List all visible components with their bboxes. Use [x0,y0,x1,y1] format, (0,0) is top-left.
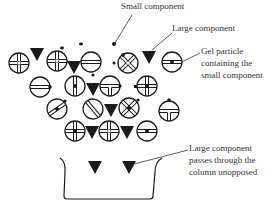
gel-particle [114,49,142,77]
gel-particle-with-small-component [65,76,85,96]
gel-particle [99,121,119,141]
gel-particle-with-small-component [115,94,143,122]
label-small-component: Small component [121,1,184,11]
gel-particle-with-small-component [137,121,157,141]
gel-particle-with-small-component [134,76,157,96]
label-large-component: Large component [172,23,235,33]
large-component-triangle [104,104,118,117]
label-passes-1: Large component [189,143,252,153]
label-passes-3: column unopposed [189,167,257,177]
gel-particle-with-small-component [65,121,85,141]
gel-particle-with-small-component [162,52,182,72]
gel-particle [9,53,29,73]
gel-particle [79,95,107,123]
large-component-triangle [142,51,156,64]
leader-line-small [115,15,132,43]
label-gel-particle-1: Gel particle [201,46,243,56]
large-component-triangle [85,126,99,139]
label-gel-particle-2: containing the [201,58,252,68]
large-component-triangle [30,48,44,61]
gel-particle-with-small-component [43,95,71,123]
leader-line-gel [182,53,200,62]
gel-particle-with-small-component [159,98,179,121]
label-gel-particle-3: small component [201,70,263,80]
gel-particle [100,76,122,96]
gel-particle [47,51,67,71]
leader-line-large [152,33,172,50]
large-component-triangle [67,61,81,74]
gel-particle [81,52,101,72]
large-component-triangle [88,161,102,174]
leader-line-passes [134,150,188,164]
small-component-dot [91,73,94,76]
gel-particle-with-small-component [30,77,52,97]
large-component-triangle [120,126,134,139]
large-component-triangle [86,83,100,96]
large-component-triangle [122,161,136,174]
column-vessel [60,158,162,199]
label-passes-2: passes through the [189,155,256,165]
